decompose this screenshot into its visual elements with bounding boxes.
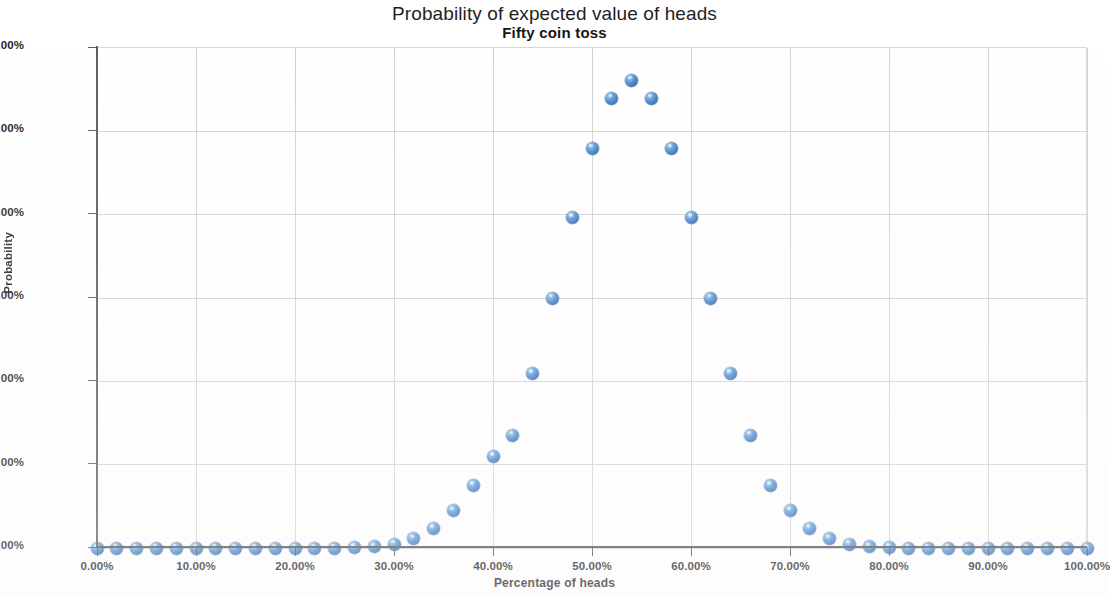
data-point-marker <box>1001 542 1014 555</box>
x-axis-tick <box>295 548 296 556</box>
y-axis-line <box>96 46 98 548</box>
chart-title: Probability of expected value of heads <box>0 4 1109 24</box>
data-point-marker <box>902 542 915 555</box>
y-axis-tick-label: 6.00% <box>0 289 24 301</box>
data-point-marker <box>784 504 797 517</box>
y-axis-tick-label: 12.00% <box>0 39 24 51</box>
data-point-marker <box>506 429 519 442</box>
x-axis-tick <box>196 548 197 556</box>
x-axis-tick-label: 90.00% <box>943 560 1033 572</box>
data-point-marker <box>566 211 579 224</box>
gridline-vertical <box>988 48 989 548</box>
data-point-marker <box>249 542 262 555</box>
data-point-marker <box>1061 542 1074 555</box>
gridline-vertical <box>196 48 197 548</box>
data-point-marker <box>110 542 123 555</box>
gridline-vertical <box>691 48 692 548</box>
title-block: Probability of expected value of heads F… <box>0 4 1109 41</box>
data-point-marker <box>407 532 420 545</box>
data-point-marker <box>645 92 658 105</box>
y-axis-tick <box>88 380 96 381</box>
y-axis-title: Probability <box>2 232 22 294</box>
data-point-marker <box>764 479 777 492</box>
data-point-marker <box>685 211 698 224</box>
data-point-marker <box>526 367 539 380</box>
x-axis-tick-label: 100.00% <box>1042 560 1115 572</box>
x-axis-tick <box>493 548 494 556</box>
data-point-marker <box>803 522 816 535</box>
gridline-vertical <box>493 48 494 548</box>
x-axis-tick <box>691 548 692 556</box>
data-point-marker <box>665 142 678 155</box>
gridline-vertical <box>790 48 791 548</box>
data-point-marker <box>229 542 242 555</box>
plot-area <box>97 47 1087 547</box>
x-axis-tick <box>988 548 989 556</box>
data-point-marker <box>546 292 559 305</box>
data-point-marker <box>823 532 836 545</box>
x-axis-tick-label: 0.00% <box>52 560 142 572</box>
data-point-marker <box>1041 542 1054 555</box>
data-point-marker <box>269 542 282 555</box>
x-axis-tick-label: 20.00% <box>250 560 340 572</box>
y-axis-tick <box>88 130 96 131</box>
y-axis-tick <box>88 47 96 48</box>
data-point-marker <box>447 504 460 517</box>
data-point-marker <box>704 292 717 305</box>
y-axis-tick <box>88 463 96 464</box>
y-axis-tick-label: 0.00% <box>0 539 24 551</box>
y-axis-tick <box>88 213 96 214</box>
x-axis-tick <box>592 548 593 556</box>
x-axis-tick <box>97 548 98 556</box>
data-point-marker <box>962 542 975 555</box>
x-axis-tick-label: 50.00% <box>547 560 637 572</box>
y-axis-tick-label: 4.00% <box>0 372 24 384</box>
y-axis-tick-label: 10.00% <box>0 122 24 134</box>
gridline-vertical <box>592 48 593 548</box>
data-point-marker <box>625 74 638 87</box>
gridline-vertical <box>295 48 296 548</box>
y-axis-tick-label: 8.00% <box>0 206 24 218</box>
x-axis-tick-label: 60.00% <box>646 560 736 572</box>
x-axis-tick <box>1087 548 1088 556</box>
y-axis-tick <box>88 297 96 298</box>
data-point-marker <box>1021 542 1034 555</box>
gridline-vertical <box>1087 48 1088 548</box>
x-axis-tick <box>790 548 791 556</box>
x-axis-title: Percentage of heads <box>0 576 1109 590</box>
x-axis-tick-label: 40.00% <box>448 560 538 572</box>
data-point-marker <box>308 542 321 555</box>
data-point-marker <box>922 542 935 555</box>
x-axis-tick-label: 10.00% <box>151 560 241 572</box>
x-axis-tick-label: 80.00% <box>844 560 934 572</box>
data-point-marker <box>170 542 183 555</box>
gridline-vertical <box>889 48 890 548</box>
data-point-marker <box>586 142 599 155</box>
data-point-marker <box>209 542 222 555</box>
x-axis-tick <box>394 548 395 556</box>
y-axis-tick-label: 2.00% <box>0 456 24 468</box>
data-point-marker <box>487 450 500 463</box>
data-point-marker <box>427 522 440 535</box>
data-point-marker <box>605 92 618 105</box>
gridline-vertical <box>394 48 395 548</box>
x-axis-tick <box>889 548 890 556</box>
data-point-marker <box>467 479 480 492</box>
x-axis-tick-label: 70.00% <box>745 560 835 572</box>
chart-subtitle: Fifty coin toss <box>0 25 1109 41</box>
data-point-marker <box>843 538 856 551</box>
x-axis-tick-label: 30.00% <box>349 560 439 572</box>
data-point-marker <box>150 542 163 555</box>
data-point-marker <box>744 429 757 442</box>
data-point-marker <box>942 542 955 555</box>
data-point-marker <box>724 367 737 380</box>
data-point-marker <box>130 542 143 555</box>
data-point-marker <box>328 542 341 555</box>
y-axis-tick <box>88 547 96 548</box>
